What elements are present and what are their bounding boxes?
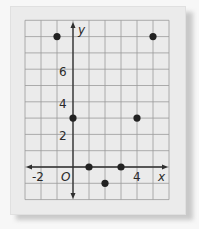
y-axis-down-arrow-icon [71,193,76,199]
y-tick-4: 4 [59,97,67,111]
y-axis [71,22,76,199]
data-point [69,115,76,122]
x-axis [26,165,168,170]
data-point [101,180,108,187]
y-tick-2: 2 [59,129,67,143]
x-axis-label: x [157,170,166,184]
x-tick-4: 4 [133,170,141,184]
data-point [53,33,60,40]
coordinate-plane: y x -2 O 4 6 4 2 [0,0,199,229]
origin-label: O [61,170,70,184]
x-tick-neg2: -2 [32,170,44,184]
x-axis-right-arrow-icon [162,165,168,170]
y-axis-label: y [77,23,86,37]
data-point [85,163,92,170]
x-axis-left-arrow-icon [26,165,32,170]
data-point [117,163,124,170]
y-axis-up-arrow-icon [71,22,76,28]
grid-lines [25,20,169,199]
y-tick-6: 6 [59,65,67,79]
data-point [133,115,140,122]
data-point [149,33,156,40]
